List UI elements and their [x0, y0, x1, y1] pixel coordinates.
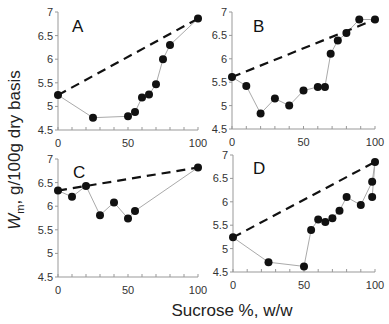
- data-point-marker: [314, 83, 322, 91]
- x-tick-label: 50: [122, 137, 134, 149]
- x-tick-label: 100: [189, 284, 207, 296]
- y-tick-label: 6.5: [212, 29, 227, 41]
- panel-b: 4.555.566.57050100B: [212, 6, 384, 148]
- data-point-marker: [307, 226, 315, 234]
- x-tick-label: 50: [122, 284, 134, 296]
- data-point-marker: [321, 218, 329, 226]
- data-point-marker: [368, 178, 376, 186]
- y-tick-label: 7: [47, 153, 53, 165]
- data-point-marker: [145, 91, 153, 99]
- x-tick-label: 100: [366, 279, 384, 291]
- data-point-marker: [228, 73, 236, 81]
- panels: 4.555.566.57050100A4.555.566.57050100B4.…: [38, 6, 384, 296]
- data-point-marker: [265, 258, 273, 266]
- y-tick-label: 5.5: [213, 219, 228, 231]
- y-tick-label: 5.5: [38, 77, 53, 89]
- y-tick-label: 5: [47, 100, 53, 112]
- data-point-marker: [257, 110, 265, 118]
- panel-label: D: [253, 159, 265, 178]
- data-point-marker: [159, 55, 167, 63]
- y-tick-label: 4.5: [213, 266, 228, 278]
- y-tick-label: 6.5: [38, 177, 53, 189]
- data-point-marker: [124, 214, 132, 222]
- data-point-marker: [194, 15, 202, 23]
- y-tick-label: 7: [222, 149, 228, 161]
- data-point-marker: [314, 216, 322, 224]
- x-axis-title: Sucrose %, w/w: [172, 301, 294, 320]
- panel-label: B: [253, 17, 264, 36]
- y-tick-label: 6: [47, 200, 53, 212]
- data-point-marker: [285, 102, 293, 110]
- y-tick-label: 6: [222, 196, 228, 208]
- data-point-marker: [336, 207, 344, 215]
- data-point-marker: [371, 158, 379, 166]
- data-point-marker: [110, 198, 118, 206]
- y-tick-label: 6.5: [38, 30, 53, 42]
- x-tick-label: 50: [297, 136, 309, 148]
- data-point-marker: [271, 95, 279, 103]
- data-point-marker: [68, 193, 76, 201]
- x-tick-label: 0: [55, 137, 61, 149]
- y-tick-label: 6: [47, 53, 53, 65]
- y-tick-label: 6: [221, 53, 227, 65]
- data-point-marker: [242, 82, 250, 90]
- y-tick-label: 5: [47, 247, 53, 259]
- data-point-marker: [82, 182, 90, 190]
- y-tick-label: 6.5: [213, 172, 228, 184]
- data-point-marker: [138, 93, 146, 101]
- panel-a: 4.555.566.57050100A: [38, 6, 207, 149]
- data-point-marker: [152, 80, 160, 88]
- x-tick-label: 100: [189, 137, 207, 149]
- data-point-marker: [166, 41, 174, 49]
- y-tick-label: 5: [222, 243, 228, 255]
- panel-c: 4.555.566.57050100C: [38, 153, 207, 296]
- data-point-marker: [124, 112, 132, 120]
- data-point-marker: [328, 214, 336, 222]
- y-tick-label: 7: [47, 6, 53, 18]
- figure: 4.555.566.57050100A4.555.566.57050100B4.…: [0, 0, 389, 324]
- y-tick-label: 4.5: [212, 123, 227, 135]
- data-point-marker: [368, 193, 376, 201]
- y-tick-label: 4.5: [38, 124, 53, 136]
- y-tick-label: 5.5: [38, 224, 53, 236]
- y-axis-title-rest: , g/100g dry basis: [5, 70, 24, 204]
- data-point-marker: [321, 83, 329, 91]
- x-tick-label: 0: [230, 279, 236, 291]
- data-point-marker: [131, 108, 139, 116]
- data-point-marker: [334, 37, 342, 45]
- x-tick-label: 50: [298, 279, 310, 291]
- x-tick-label: 100: [366, 136, 384, 148]
- data-point-marker: [327, 50, 335, 58]
- data-point-marker: [194, 163, 202, 171]
- data-point-marker: [96, 211, 104, 219]
- data-point-marker: [54, 91, 62, 99]
- data-point-marker: [54, 187, 62, 195]
- panel-d: 4.555.566.57050100D: [213, 149, 384, 291]
- data-point-marker: [300, 262, 308, 270]
- y-tick-label: 4.5: [38, 271, 53, 283]
- y-tick-label: 5: [221, 100, 227, 112]
- y-tick-label: 5.5: [212, 76, 227, 88]
- y-axis-title-sub: m: [14, 204, 26, 213]
- x-tick-label: 0: [55, 284, 61, 296]
- y-tick-label: 7: [221, 6, 227, 18]
- panel-label: A: [72, 17, 84, 36]
- data-point-marker: [300, 87, 308, 95]
- data-point-marker: [371, 15, 379, 23]
- data-point-marker: [342, 29, 350, 37]
- data-point-marker: [343, 193, 351, 201]
- data-point-marker: [355, 15, 363, 23]
- data-point-marker: [357, 201, 365, 209]
- y-axis-title: Wm, g/100g dry basis: [5, 70, 26, 229]
- data-point-marker: [229, 233, 237, 241]
- x-tick-label: 0: [229, 136, 235, 148]
- panel-label: C: [73, 163, 85, 182]
- data-point-marker: [89, 114, 97, 122]
- data-point-marker: [131, 207, 139, 215]
